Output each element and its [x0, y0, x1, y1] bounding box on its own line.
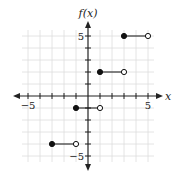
x-axis-arrow-right-icon	[156, 93, 163, 99]
y-tick-label: 5	[78, 31, 84, 42]
open-point	[121, 69, 126, 74]
y-axis-arrow-up-icon	[85, 21, 91, 28]
open-point	[145, 33, 150, 38]
step-function-chart: −555−5xf(x)	[0, 0, 177, 180]
x-axis-label: x	[165, 90, 172, 103]
open-point	[97, 105, 102, 110]
axes	[13, 21, 163, 171]
x-tick-label: 5	[145, 100, 151, 111]
closed-point	[73, 105, 78, 110]
closed-point	[49, 141, 54, 146]
open-point	[73, 141, 78, 146]
closed-point	[97, 69, 102, 74]
y-tick-label: −5	[69, 151, 84, 162]
y-axis-label: f(x)	[78, 7, 98, 20]
axis-labels: −555−5xf(x)	[21, 7, 172, 162]
x-axis-arrow-left-icon	[13, 93, 20, 99]
x-tick-label: −5	[21, 100, 36, 111]
closed-point	[121, 33, 126, 38]
y-axis-arrow-down-icon	[85, 164, 91, 171]
